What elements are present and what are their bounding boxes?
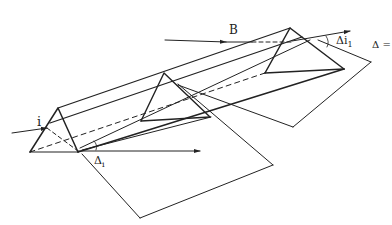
- delta-i-subscript: 1: [347, 40, 352, 49]
- label-beam-b: B: [229, 24, 238, 36]
- prism-diagram: [0, 0, 392, 225]
- equation-fragment: Δ =: [372, 40, 391, 50]
- label-delta-bottom: Δi: [94, 155, 105, 169]
- label-delta-top: Δi1: [336, 35, 353, 49]
- prism-back: [265, 28, 344, 73]
- prism-long-edges: [30, 28, 344, 152]
- label-incident-i: i: [37, 115, 41, 128]
- deviated-ray: [78, 141, 200, 151]
- delta-subscript: i: [102, 160, 105, 169]
- delta-symbol: Δ: [94, 154, 102, 167]
- delta-i-symbol: Δi: [336, 34, 347, 47]
